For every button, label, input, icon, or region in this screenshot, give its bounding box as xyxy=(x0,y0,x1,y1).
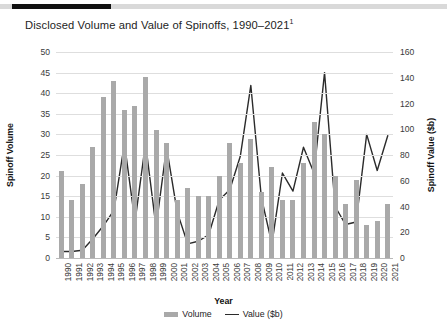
volume-bar xyxy=(196,196,201,258)
volume-bar xyxy=(301,163,306,258)
volume-bar xyxy=(227,143,232,258)
y-axis-right-tick: 80 xyxy=(400,150,410,160)
gridline xyxy=(56,196,393,197)
x-axis-tick-2018: 2018 xyxy=(359,263,368,281)
volume-bar xyxy=(322,134,327,258)
x-axis-tick-1996: 1996 xyxy=(128,263,137,281)
x-axis-tick-2000: 2000 xyxy=(170,263,179,281)
x-axis-tick-2001: 2001 xyxy=(180,263,189,281)
y-axis-right-title-text: Spinoff Value ($b) xyxy=(426,118,436,192)
gridline xyxy=(56,155,393,156)
x-axis-tick-2021: 2021 xyxy=(391,263,400,281)
gridline xyxy=(56,93,393,94)
volume-bar xyxy=(290,200,295,258)
x-axis-tick-1995: 1995 xyxy=(117,263,126,281)
x-axis-tick-2019: 2019 xyxy=(370,263,379,281)
y-axis-left-tick: 25 xyxy=(40,150,50,160)
x-axis-tick-2012: 2012 xyxy=(296,263,305,281)
x-axis-tick-1999: 1999 xyxy=(159,263,168,281)
gridline xyxy=(56,258,393,259)
y-axis-left-title-text: Spinoff Volume xyxy=(5,123,15,187)
volume-bar xyxy=(69,200,74,258)
y-axis-left-tick: 50 xyxy=(40,47,50,57)
x-axis-tick-1993: 1993 xyxy=(96,263,105,281)
volume-bar xyxy=(154,130,159,258)
x-axis-tick-1994: 1994 xyxy=(107,263,116,281)
volume-bar xyxy=(217,176,222,258)
x-axis-tick-2002: 2002 xyxy=(191,263,200,281)
legend-item-volume: Volume xyxy=(164,309,211,319)
y-axis-left-tick: 30 xyxy=(40,129,50,139)
chart-title: Disclosed Volume and Value of Spinoffs, … xyxy=(25,18,293,31)
x-axis-tick-1997: 1997 xyxy=(138,263,147,281)
chart-legend: Volume Value ($b) xyxy=(0,309,447,319)
x-axis-tick-2015: 2015 xyxy=(328,263,337,281)
legend-swatch-line-icon xyxy=(225,314,239,315)
x-axis-tick-1990: 1990 xyxy=(64,263,73,281)
volume-bar xyxy=(354,180,359,258)
y-axis-right-tick: 60 xyxy=(400,176,410,186)
volume-bar xyxy=(111,81,116,258)
x-axis-tick-2016: 2016 xyxy=(338,263,347,281)
volume-bar xyxy=(185,188,190,258)
volume-bar xyxy=(206,196,211,258)
y-axis-left-tick: 20 xyxy=(40,171,50,181)
volume-bar xyxy=(259,192,264,258)
title-footnote-marker: 1 xyxy=(289,18,293,25)
y-axis-right-tick: 160 xyxy=(400,47,414,57)
volume-bar xyxy=(312,122,317,258)
y-axis-left-tick: 45 xyxy=(40,68,50,78)
y-axis-left-tick: 5 xyxy=(45,232,50,242)
x-axis-tick-2005: 2005 xyxy=(222,263,231,281)
y-axis-right-tick: 120 xyxy=(400,99,414,109)
legend-swatch-bar-icon xyxy=(164,312,178,317)
volume-bar xyxy=(248,139,253,258)
legend-label-value: Value ($b) xyxy=(243,309,283,319)
x-axis-tick-2020: 2020 xyxy=(380,263,389,281)
gridline xyxy=(56,176,393,177)
y-axis-left-tick: 10 xyxy=(40,212,50,222)
y-axis-right-tick: 0 xyxy=(400,253,405,263)
x-axis-tick-2003: 2003 xyxy=(201,263,210,281)
y-axis-left-tick: 35 xyxy=(40,109,50,119)
volume-bar xyxy=(364,225,369,258)
x-axis-tick-labels: 1990199119921993199419951996199719981999… xyxy=(56,260,393,294)
volume-bar xyxy=(269,167,274,258)
header-accent-fill xyxy=(12,4,111,9)
y-axis-right-tick: 40 xyxy=(400,202,410,212)
x-axis-tick-2008: 2008 xyxy=(254,263,263,281)
x-axis-tick-2010: 2010 xyxy=(275,263,284,281)
volume-bar xyxy=(175,200,180,258)
gridline xyxy=(56,134,393,135)
volume-bar xyxy=(80,184,85,258)
header-accent-rule xyxy=(0,4,447,9)
x-axis-tick-2007: 2007 xyxy=(243,263,252,281)
y-axis-right-tick: 20 xyxy=(400,227,410,237)
plot-area: 0510152025303540455002040608010012014016… xyxy=(56,52,393,258)
x-axis-tick-1991: 1991 xyxy=(75,263,84,281)
volume-bar xyxy=(375,221,380,258)
volume-bar xyxy=(280,200,285,258)
volume-bar xyxy=(385,204,390,258)
volume-bar xyxy=(164,143,169,258)
volume-bar xyxy=(132,106,137,258)
gridline xyxy=(56,114,393,115)
gridline xyxy=(56,73,393,74)
y-axis-right-tick: 100 xyxy=(400,124,414,134)
volume-bar xyxy=(122,110,127,258)
y-axis-right-tick: 140 xyxy=(400,73,414,83)
y-axis-right-title: Spinoff Value ($b) xyxy=(424,52,438,258)
legend-label-volume: Volume xyxy=(182,309,211,319)
x-axis-tick-2011: 2011 xyxy=(286,263,295,281)
volume-bar xyxy=(333,176,338,258)
x-axis-tick-2017: 2017 xyxy=(349,263,358,281)
gridline xyxy=(56,52,393,53)
x-axis-tick-1992: 1992 xyxy=(86,263,95,281)
volume-bar xyxy=(238,163,243,258)
volume-bar xyxy=(343,204,348,258)
y-axis-left-title: Spinoff Volume xyxy=(4,52,16,258)
legend-item-value: Value ($b) xyxy=(225,309,283,319)
volume-bar xyxy=(101,97,106,258)
volume-bar xyxy=(143,77,148,258)
y-axis-left-tick: 40 xyxy=(40,88,50,98)
